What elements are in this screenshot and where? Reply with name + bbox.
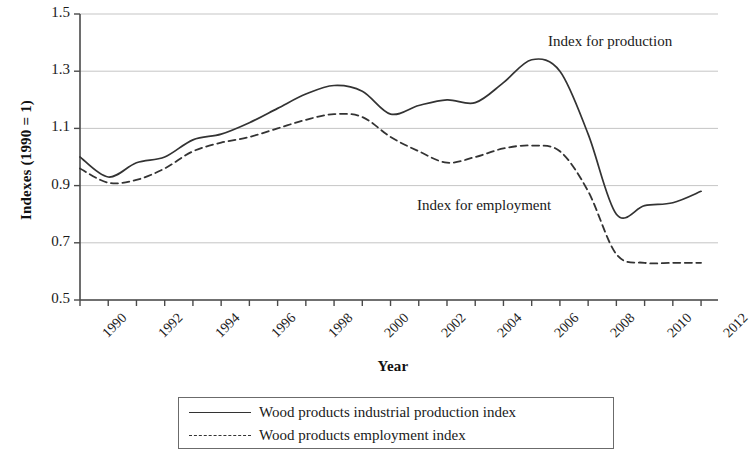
x-axis-title: Year — [378, 358, 409, 374]
series-line-employment — [80, 114, 701, 264]
y-axis-tick-label: 0.7 — [28, 233, 70, 250]
annotation-employment-series: Index for employment — [417, 197, 551, 214]
legend-item: Wood products employment index — [179, 424, 613, 447]
legend-item-label: Wood products employment index — [259, 427, 466, 444]
y-axis-tick-label: 1.5 — [28, 4, 70, 21]
y-axis-tick-label: 0.9 — [28, 176, 70, 193]
y-axis-tick-label: 1.3 — [28, 61, 70, 78]
y-axis-tick-label: 0.5 — [28, 290, 70, 307]
legend-item-label: Wood products industrial production inde… — [259, 404, 516, 421]
x-axis-title-wrapper: Year — [343, 357, 443, 375]
legend-line-swatch-solid — [189, 407, 251, 419]
annotation-production-series: Index for production — [548, 33, 672, 50]
series-line-production — [80, 59, 701, 218]
y-axis-tick-label: 1.1 — [28, 118, 70, 135]
legend-line-swatch-dashed — [189, 430, 251, 442]
chart-legend: Wood products industrial production inde… — [178, 397, 614, 449]
legend-item: Wood products industrial production inde… — [179, 401, 613, 424]
